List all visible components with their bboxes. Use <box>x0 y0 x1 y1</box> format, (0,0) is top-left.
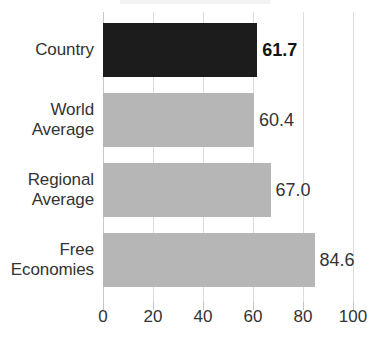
category-label-line2: Average <box>0 190 94 210</box>
bar-row: FreeEconomies84.6 <box>0 233 392 287</box>
category-label-line1: World <box>50 100 94 119</box>
bar-chart: Country61.7WorldAverage60.4RegionalAvera… <box>0 0 392 356</box>
category-label: RegionalAverage <box>0 170 94 210</box>
category-label-line2: Economies <box>0 260 94 280</box>
bar-value-label: 84.6 <box>320 233 355 287</box>
category-label-line2: Average <box>0 120 94 140</box>
category-label-line1: Free <box>59 240 94 259</box>
category-label: Country <box>0 40 94 60</box>
category-label-line1: Regional <box>28 170 94 189</box>
x-axis-tick-label: 40 <box>194 306 213 328</box>
x-axis-tick-label: 60 <box>244 306 263 328</box>
bar-row: WorldAverage60.4 <box>0 93 392 147</box>
bar-row: Country61.7 <box>0 23 392 77</box>
bar-free-economies[interactable] <box>103 233 315 287</box>
x-axis-tick-label: 20 <box>144 306 163 328</box>
x-axis-tick-label: 100 <box>339 306 367 328</box>
bar-value-label: 60.4 <box>259 93 294 147</box>
chart-plot-area: Country61.7WorldAverage60.4RegionalAvera… <box>0 0 392 356</box>
bar-regional-average[interactable] <box>103 163 271 217</box>
bar-row: RegionalAverage67.0 <box>0 163 392 217</box>
category-label: WorldAverage <box>0 100 94 140</box>
x-axis-tick-label: 0 <box>98 306 107 328</box>
x-axis-tick-label: 80 <box>294 306 313 328</box>
x-axis: 020406080100 <box>0 306 392 336</box>
category-label-line1: Country <box>35 40 94 59</box>
bar-country[interactable] <box>103 23 257 77</box>
bar-value-label: 61.7 <box>262 23 297 77</box>
bar-world-average[interactable] <box>103 93 254 147</box>
bar-value-label: 67.0 <box>276 163 311 217</box>
category-label: FreeEconomies <box>0 240 94 280</box>
